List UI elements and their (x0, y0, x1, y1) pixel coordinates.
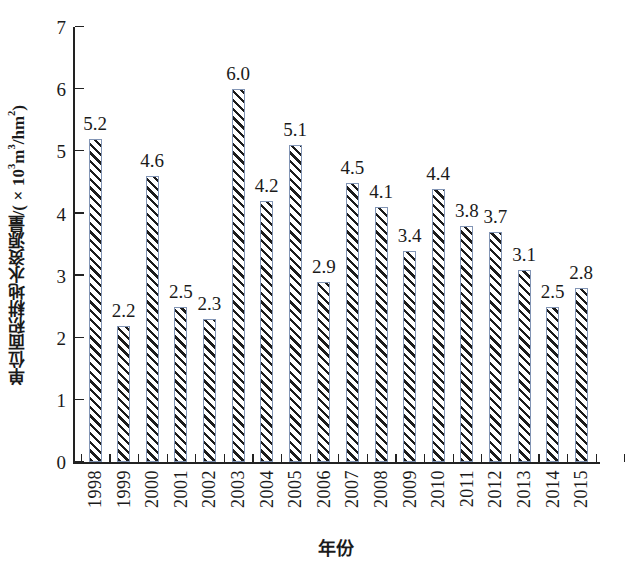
x-tick-label: 2001 (172, 470, 190, 511)
bar (518, 270, 531, 463)
bar-value-label: 4.1 (369, 182, 393, 201)
x-tick-label-text: 2007 (343, 470, 361, 508)
x-tick (481, 454, 482, 462)
x-tick-label: 2002 (200, 470, 218, 511)
x-tick (252, 454, 253, 462)
y-tick (75, 26, 84, 27)
bar-value-label: 6.0 (226, 64, 250, 83)
bar-value-label: 3.4 (398, 226, 422, 245)
y-tick-label: 7 (57, 18, 67, 37)
x-tick-label-text: 2003 (229, 470, 247, 508)
bar-value-label: 2.8 (569, 263, 593, 282)
y-tick (75, 337, 84, 338)
x-tick-label: 2011 (458, 470, 476, 510)
x-tick-label-text: 2014 (544, 470, 562, 508)
x-tick (224, 454, 225, 462)
y-axis-title-mid: m (9, 149, 28, 163)
y-tick (75, 88, 84, 89)
y-tick-label: 2 (57, 329, 67, 348)
y-axis-title-exp1: 3 (6, 164, 17, 169)
x-tick-label: 1998 (86, 470, 104, 511)
x-tick-label: 2013 (515, 470, 533, 511)
y-tick-label: 5 (57, 142, 67, 161)
x-tick (195, 454, 196, 462)
x-tick-label: 2006 (315, 470, 333, 511)
bar-value-label: 2.3 (198, 294, 222, 313)
x-tick (338, 454, 339, 462)
x-tick-label: 2009 (401, 470, 419, 511)
x-tick-label: 2005 (286, 470, 304, 511)
bar (346, 183, 359, 463)
y-tick-label: 1 (57, 391, 67, 410)
x-tick (281, 454, 282, 462)
bar (203, 319, 216, 462)
x-tick-label-text: 2001 (172, 470, 190, 508)
x-tick (310, 454, 311, 462)
y-tick-label: 0 (57, 453, 67, 472)
x-tick-label-text: 2004 (258, 470, 276, 508)
bar-value-label: 4.6 (140, 151, 164, 170)
bar (317, 282, 330, 462)
x-tick-label-text: 2011 (458, 470, 476, 507)
x-tick-label: 2003 (229, 470, 247, 511)
x-tick-label: 2007 (343, 470, 361, 511)
x-tick (424, 454, 425, 462)
x-tick (395, 454, 396, 462)
x-tick (109, 454, 110, 462)
bar (89, 139, 102, 462)
y-axis-title-exp2: 3 (6, 144, 17, 149)
x-axis-title-text: 年份 (318, 534, 354, 560)
x-tick-label: 2010 (429, 470, 447, 511)
y-tick-label: 4 (57, 204, 67, 223)
bar-value-label: 5.2 (83, 114, 107, 133)
bar (375, 207, 388, 462)
x-tick-label-text: 2000 (143, 470, 161, 508)
x-tick-label-text: 2012 (486, 470, 504, 508)
plot-area: 01234567 5.22.24.62.52.36.04.25.12.94.54… (73, 27, 600, 464)
y-axis-title-text: 单位面积耕地水资源量/(×103m3/hm2) (7, 105, 27, 385)
x-tick (453, 454, 454, 462)
x-tick-label-text: 2006 (315, 470, 333, 508)
x-tick (624, 454, 625, 462)
x-tick-label: 2014 (544, 470, 562, 511)
x-tick (367, 454, 368, 462)
x-tick (538, 454, 539, 462)
bar (575, 288, 588, 462)
y-axis-title: 单位面积耕地水资源量/(×103m3/hm2) (0, 0, 34, 490)
x-tick-label-text: 2010 (429, 470, 447, 508)
x-tick (167, 454, 168, 462)
y-tick (75, 150, 84, 151)
bar (117, 326, 130, 463)
x-tick (596, 454, 597, 462)
bar (403, 251, 416, 462)
y-axis-title-unit: /hm (9, 116, 28, 144)
y-tick-label: 6 (57, 80, 67, 99)
x-tick (510, 454, 511, 462)
x-tick-label: 2000 (143, 470, 161, 511)
x-tick-label: 1999 (115, 470, 133, 511)
x-tick-label-text: 2015 (572, 470, 590, 508)
bar (174, 307, 187, 463)
x-tick-label-text: 1998 (86, 470, 104, 508)
x-tick-label: 2004 (258, 470, 276, 511)
bar (146, 176, 159, 462)
bar-value-label: 2.5 (169, 282, 193, 301)
x-tick-label: 2008 (372, 470, 390, 511)
bar (289, 145, 302, 462)
bar-value-label: 2.9 (312, 257, 336, 276)
y-axis-title-prefix: 单位面积耕地水资源量/(×10 (9, 169, 28, 385)
y-axis-title-suffix: ) (9, 105, 28, 111)
y-tick (75, 212, 84, 213)
x-tick (567, 454, 568, 462)
x-tick-label-text: 2009 (401, 470, 419, 508)
y-tick (75, 274, 84, 275)
x-tick-label: 2012 (486, 470, 504, 511)
bar-value-label: 5.1 (283, 120, 307, 139)
x-tick-label-text: 2008 (372, 470, 390, 508)
y-axis-title-exp3: 2 (6, 110, 17, 115)
bar-value-label: 2.2 (112, 301, 136, 320)
x-tick-label-text: 2002 (200, 470, 218, 508)
bar-value-label: 4.2 (255, 176, 279, 195)
y-tick (75, 399, 84, 400)
bar-value-label: 4.4 (426, 164, 450, 183)
